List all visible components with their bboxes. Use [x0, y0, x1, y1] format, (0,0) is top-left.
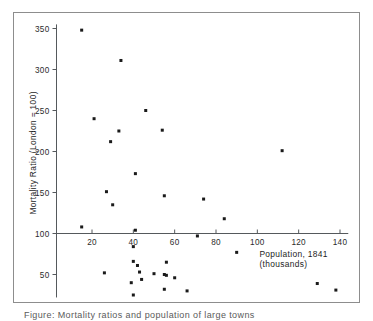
- data-point: [105, 190, 108, 193]
- data-point: [140, 278, 143, 281]
- data-point: [119, 59, 122, 62]
- data-point: [163, 194, 166, 197]
- y-axis-title: Mortality Ratio (London = 100): [28, 91, 38, 214]
- x-tick-label-80: 80: [211, 238, 221, 247]
- data-point: [109, 140, 112, 143]
- y-tick-label-300: 300: [35, 66, 50, 75]
- data-point: [93, 117, 96, 120]
- data-point: [161, 129, 164, 132]
- x-axis-title: Population, 1841: [259, 249, 327, 259]
- data-point: [132, 260, 135, 263]
- data-point: [134, 229, 137, 232]
- data-point: [80, 225, 83, 228]
- data-point: [186, 289, 189, 292]
- figure-container: 5010015020025030035020406080100120140 Mo…: [0, 0, 373, 321]
- x-tick-label-140: 140: [333, 238, 348, 247]
- x-axis-title-units: (thousands): [259, 259, 307, 269]
- data-point: [134, 172, 137, 175]
- data-point: [111, 203, 114, 206]
- figure-caption: Figure: Mortality ratios and population …: [24, 310, 354, 321]
- y-tick-label-100: 100: [35, 230, 50, 239]
- x-tick-label-20: 20: [87, 238, 97, 247]
- data-point: [223, 217, 226, 220]
- x-tick-label-120: 120: [291, 238, 306, 247]
- data-point: [80, 29, 83, 32]
- data-point: [165, 261, 168, 264]
- data-point: [173, 276, 176, 279]
- data-point: [202, 198, 205, 201]
- y-tick-label-50: 50: [40, 271, 50, 280]
- data-point: [196, 234, 199, 237]
- data-point: [334, 289, 337, 292]
- data-point: [130, 281, 133, 284]
- data-point: [138, 271, 141, 274]
- scatter-plot: 5010015020025030035020406080100120140 Mo…: [0, 0, 373, 321]
- data-point: [132, 245, 135, 248]
- data-point: [153, 272, 156, 275]
- data-point: [136, 264, 139, 267]
- data-point: [103, 271, 106, 274]
- data-point: [235, 251, 238, 254]
- data-point: [165, 274, 168, 277]
- y-tick-label-350: 350: [35, 25, 50, 34]
- tick-labels-group: 5010015020025030035020406080100120140: [35, 25, 347, 280]
- data-point: [117, 130, 120, 133]
- data-point: [281, 149, 284, 152]
- x-tick-label-100: 100: [250, 238, 265, 247]
- data-point: [163, 288, 166, 291]
- x-tick-label-60: 60: [170, 238, 180, 247]
- data-point: [316, 282, 319, 285]
- data-point: [144, 109, 147, 112]
- data-point: [132, 294, 135, 297]
